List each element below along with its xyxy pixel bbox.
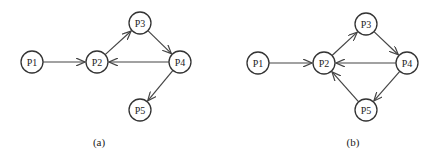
- node-p2: P2: [313, 52, 335, 74]
- edge-p4-to-p5: [374, 71, 400, 101]
- node-label: P5: [135, 105, 146, 116]
- diagram-a: P1P2P3P4P5(a): [21, 12, 191, 149]
- node-p5: P5: [355, 99, 377, 121]
- node-label: P1: [27, 57, 38, 68]
- node-p1: P1: [21, 51, 43, 73]
- edge-p4-to-p5: [148, 70, 173, 100]
- node-label: P1: [253, 58, 264, 69]
- edge-p5-to-p2: [332, 72, 359, 102]
- node-label: P5: [361, 105, 372, 116]
- node-p4: P4: [169, 51, 191, 73]
- node-p4: P4: [396, 52, 418, 74]
- node-label: P4: [175, 57, 186, 68]
- node-label: P3: [135, 18, 146, 29]
- node-label: P3: [361, 19, 372, 30]
- node-p3: P3: [129, 12, 151, 34]
- node-label: P2: [92, 57, 103, 68]
- diagram-b: P1P2P3P4P5(b): [247, 13, 418, 149]
- edge-p2-to-p3: [105, 31, 131, 55]
- edge-p3-to-p4: [148, 31, 172, 54]
- node-p2: P2: [86, 51, 108, 73]
- edge-p3-to-p4: [374, 32, 398, 55]
- node-p3: P3: [355, 13, 377, 35]
- node-label: P4: [402, 58, 413, 69]
- edge-p2-to-p3: [332, 32, 357, 55]
- node-p5: P5: [129, 99, 151, 121]
- process-graph-canvas: P1P2P3P4P5(a) P1P2P3P4P5(b): [0, 0, 440, 156]
- diagram-caption: (b): [347, 136, 360, 149]
- diagram-caption: (a): [93, 136, 106, 149]
- node-label: P2: [319, 58, 330, 69]
- node-p1: P1: [247, 52, 269, 74]
